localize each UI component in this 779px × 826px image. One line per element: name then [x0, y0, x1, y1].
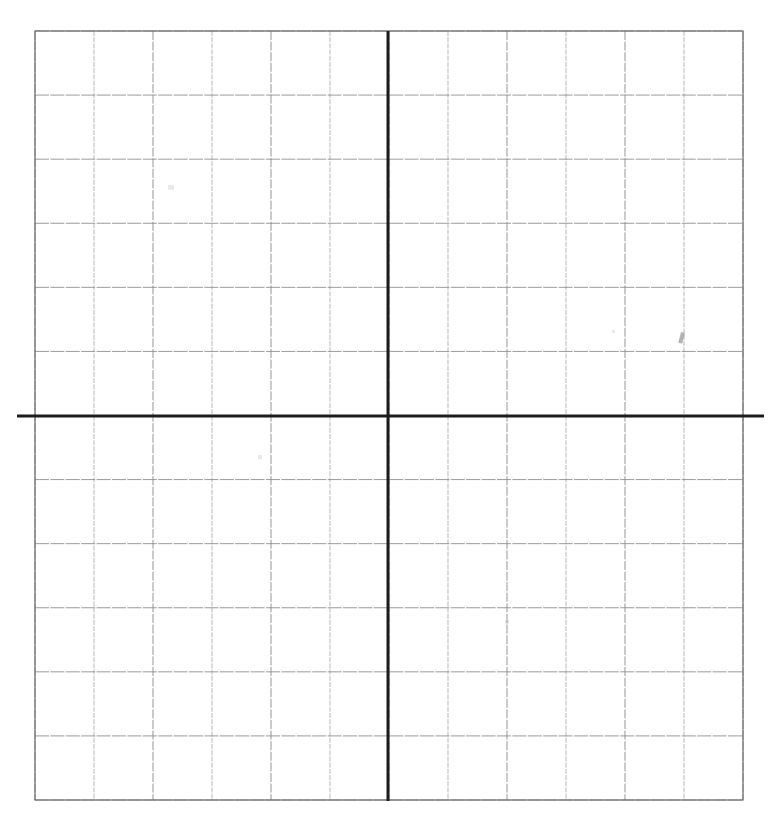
- coordinate-grid[interactable]: [0, 0, 779, 826]
- graph-paper-figure: [0, 0, 779, 826]
- smudge-mark: [258, 455, 262, 459]
- smudge-mark: [168, 185, 174, 190]
- smudge-mark: [505, 620, 509, 624]
- smudge-mark: [612, 330, 615, 333]
